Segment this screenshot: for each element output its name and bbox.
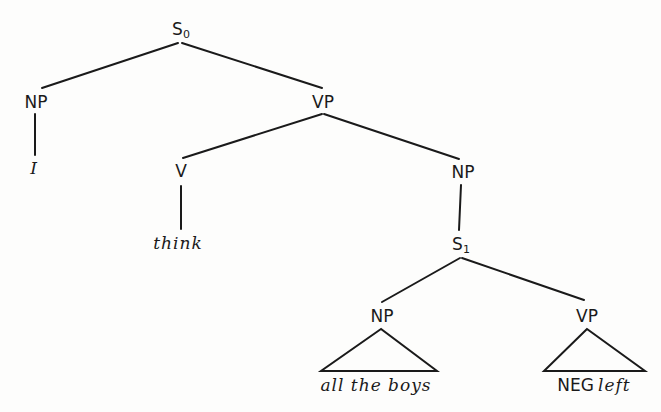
leaf-pronoun: I bbox=[30, 158, 38, 178]
embedded-verb: left bbox=[598, 375, 631, 395]
node-vp-embedded: VP bbox=[576, 306, 598, 326]
node-s1-subscript: 1 bbox=[463, 243, 470, 256]
node-vp-main: VP bbox=[312, 92, 334, 112]
edge-np-s1 bbox=[459, 185, 461, 230]
edge-s0-vp bbox=[182, 43, 322, 88]
node-s1-label: S bbox=[452, 234, 463, 254]
edge-s1-vp bbox=[462, 258, 584, 300]
edge-s1-np bbox=[382, 258, 460, 302]
node-np-embedded: NP bbox=[371, 306, 394, 326]
node-s0-subscript: 0 bbox=[183, 28, 190, 41]
node-s1: S1 bbox=[452, 234, 470, 260]
leaf-verb: think bbox=[153, 233, 202, 253]
triangle-np-embedded bbox=[321, 329, 437, 371]
syntax-tree-diagram: S0 NP I VP V think NP S1 NP all the boys… bbox=[0, 0, 661, 412]
tree-edges bbox=[0, 0, 661, 412]
edge-s0-np bbox=[42, 43, 178, 88]
neg-marker: NEG bbox=[557, 375, 594, 395]
node-np-object: NP bbox=[452, 162, 475, 182]
node-s0-label: S bbox=[172, 19, 183, 39]
node-v: V bbox=[175, 161, 187, 181]
leaf-vp-embedded-text: NEG left bbox=[557, 375, 630, 396]
node-np-subject: NP bbox=[25, 92, 48, 112]
edge-vp-np bbox=[324, 114, 459, 159]
leaf-np-embedded-text: all the boys bbox=[320, 375, 431, 395]
node-s0: S0 bbox=[172, 19, 190, 45]
triangle-vp-embedded bbox=[544, 329, 645, 371]
edge-vp-v bbox=[183, 114, 322, 158]
